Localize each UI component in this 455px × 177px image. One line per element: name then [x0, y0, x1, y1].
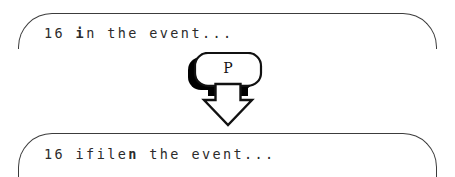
- keypress-pointer-glyph: P: [186, 52, 270, 128]
- key-cap: [195, 53, 261, 86]
- before-text-suffix: n the event...: [86, 25, 233, 41]
- after-text-suffix: the event...: [139, 146, 276, 162]
- before-state-text: 16 in the event...: [44, 25, 234, 41]
- after-text-prefix: 16 ifile: [44, 146, 128, 162]
- before-text-bold-char: i: [76, 25, 87, 41]
- illustration-canvas: 16 in the event... P 16 ifilen the event…: [0, 0, 455, 177]
- after-state-text: 16 ifilen the event...: [44, 146, 276, 162]
- after-text-bold-char: n: [128, 146, 139, 162]
- before-text-prefix: 16: [44, 25, 76, 41]
